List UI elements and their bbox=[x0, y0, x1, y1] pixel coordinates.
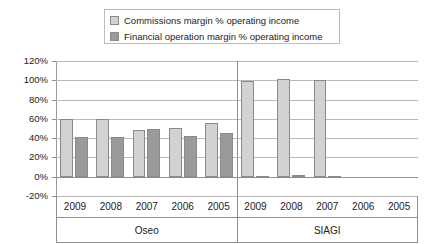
x-axis-year-labels: 2009200820072006200520092008200720062005 bbox=[56, 196, 418, 218]
legend-label-financial-operation-margin: Financial operation margin % operating i… bbox=[124, 31, 323, 42]
y-axis-tick-label: 40% bbox=[2, 133, 48, 143]
x-axis-year-label: 2008 bbox=[93, 196, 129, 217]
bar-commissions-margin bbox=[314, 80, 327, 176]
bar-commissions-margin bbox=[277, 79, 290, 176]
x-axis-group-labels: OseoSIAGI bbox=[56, 218, 418, 243]
x-axis-year-label: 2008 bbox=[273, 196, 309, 217]
bar-financial-operation-margin bbox=[292, 175, 305, 177]
legend-item-financial-operation-margin: Financial operation margin % operating i… bbox=[110, 29, 334, 44]
bar-commissions-margin bbox=[205, 123, 218, 177]
x-axis-year-label: 2005 bbox=[381, 196, 417, 217]
y-axis-tick-label: 120% bbox=[2, 56, 48, 66]
y-axis-tick-label: 100% bbox=[2, 75, 48, 85]
bar-commissions-margin bbox=[241, 81, 254, 176]
bar-financial-operation-margin bbox=[75, 137, 88, 177]
group-separator bbox=[237, 61, 238, 196]
legend-swatch-icon-financial-operation-margin bbox=[110, 32, 119, 41]
plot-area bbox=[56, 61, 418, 196]
x-axis-year-label: 2006 bbox=[345, 196, 381, 217]
bar-financial-operation-margin bbox=[184, 136, 197, 177]
x-axis-year-label: 2006 bbox=[165, 196, 201, 217]
x-axis-year-label: 2009 bbox=[57, 196, 93, 217]
bar-financial-operation-margin bbox=[328, 176, 341, 178]
y-axis-tick-label: -20% bbox=[2, 191, 48, 201]
chart-legend: Commissions margin % operating income Fi… bbox=[104, 9, 340, 44]
bar-chart: Commissions margin % operating income Fi… bbox=[0, 0, 429, 244]
legend-item-commissions-margin: Commissions margin % operating income bbox=[110, 13, 334, 28]
x-axis-year-label: 2005 bbox=[201, 196, 237, 217]
x-axis-year-label: 2007 bbox=[309, 196, 345, 217]
bar-financial-operation-margin bbox=[111, 137, 124, 177]
bar-commissions-margin bbox=[169, 128, 182, 177]
bar-financial-operation-margin bbox=[220, 133, 233, 176]
x-axis-group-label: SIAGI bbox=[237, 218, 418, 242]
y-axis-tick-label: 60% bbox=[2, 114, 48, 124]
y-axis-tick-label: 20% bbox=[2, 152, 48, 162]
bar-commissions-margin bbox=[60, 119, 73, 177]
x-axis-year-label: 2009 bbox=[237, 196, 274, 217]
legend-label-commissions-margin: Commissions margin % operating income bbox=[124, 15, 299, 26]
x-axis-year-label: 2007 bbox=[129, 196, 165, 217]
y-axis-tick-label: 0% bbox=[2, 172, 48, 182]
bar-financial-operation-margin bbox=[147, 129, 160, 177]
x-axis-group-label: Oseo bbox=[57, 218, 237, 242]
bar-commissions-margin bbox=[96, 119, 109, 177]
bar-commissions-margin bbox=[133, 130, 146, 176]
bar-financial-operation-margin bbox=[256, 176, 269, 178]
y-axis-tick-label: 80% bbox=[2, 95, 48, 105]
legend-swatch-icon-commissions-margin bbox=[110, 16, 119, 25]
